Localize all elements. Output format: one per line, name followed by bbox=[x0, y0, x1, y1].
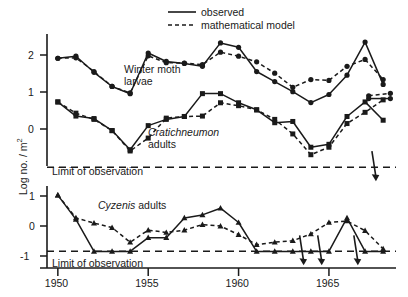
data-point bbox=[326, 145, 331, 150]
data-point bbox=[236, 45, 241, 50]
data-point bbox=[128, 148, 133, 153]
below-limit-arrow bbox=[372, 151, 380, 181]
data-point bbox=[381, 77, 386, 82]
data-point bbox=[128, 90, 133, 95]
y-tick-label-lower: 1 bbox=[29, 191, 35, 202]
data-point bbox=[381, 97, 386, 102]
data-point bbox=[218, 100, 223, 105]
arrow-head bbox=[318, 258, 326, 265]
data-point bbox=[290, 89, 295, 94]
data-point bbox=[254, 107, 259, 112]
data-point bbox=[218, 205, 224, 210]
data-point bbox=[236, 54, 241, 59]
data-point bbox=[55, 192, 61, 197]
data-point bbox=[91, 69, 96, 74]
data-point bbox=[345, 114, 350, 119]
y-axis-title: Log no. / m2 bbox=[15, 138, 29, 195]
data-point bbox=[362, 39, 367, 44]
figure-canvas: 01201-11950195519601965observedmathemati… bbox=[0, 0, 408, 297]
data-point bbox=[290, 119, 295, 124]
data-point bbox=[362, 57, 367, 62]
x-tick-label: 1965 bbox=[316, 278, 339, 289]
data-point bbox=[363, 110, 368, 115]
data-point bbox=[308, 231, 314, 236]
legend-label-observed: observed bbox=[201, 7, 244, 18]
data-point bbox=[236, 103, 241, 108]
data-point bbox=[308, 77, 313, 82]
data-point bbox=[381, 118, 386, 123]
data-point bbox=[308, 152, 313, 157]
arrow-shaft bbox=[354, 235, 358, 261]
data-point bbox=[388, 91, 393, 96]
series-label-cyzenis-adults: Cyzenis adults bbox=[98, 200, 166, 211]
y-tick-label-lower: -1 bbox=[20, 251, 29, 262]
arrow-shaft bbox=[300, 235, 304, 261]
data-point bbox=[73, 111, 78, 116]
data-point bbox=[200, 91, 205, 96]
y-tick-label-upper: 1 bbox=[28, 87, 34, 98]
data-point bbox=[109, 84, 114, 89]
data-point bbox=[345, 121, 350, 126]
data-point bbox=[326, 78, 331, 83]
data-point bbox=[218, 91, 223, 96]
arrow-head bbox=[354, 258, 362, 265]
y-tick-label-upper: 0 bbox=[28, 124, 34, 135]
data-point bbox=[254, 59, 259, 64]
series-label-cratichneumon-adults: Cratichneumonadults bbox=[148, 126, 219, 150]
data-point bbox=[200, 114, 205, 119]
x-tick-label: 1950 bbox=[45, 278, 68, 289]
data-point bbox=[272, 71, 277, 76]
legend-label-mathematical-model: mathematical model bbox=[201, 20, 295, 31]
limit-of-observation-label-upper: Limit of observation bbox=[52, 166, 143, 177]
arrow-shaft bbox=[372, 151, 376, 177]
data-point bbox=[388, 96, 393, 101]
data-point bbox=[308, 100, 313, 105]
data-point bbox=[218, 40, 223, 45]
data-point bbox=[290, 85, 295, 90]
data-point bbox=[366, 93, 371, 98]
data-point bbox=[182, 114, 187, 119]
data-point bbox=[272, 117, 277, 122]
data-point bbox=[326, 92, 331, 97]
data-point bbox=[290, 131, 295, 136]
data-point bbox=[363, 99, 368, 104]
data-point bbox=[272, 79, 277, 84]
series-markers-mathematical-model bbox=[55, 97, 385, 157]
x-tick-label: 1955 bbox=[135, 278, 158, 289]
data-point bbox=[91, 117, 96, 122]
data-point bbox=[110, 128, 115, 133]
series-line-mathematical-model bbox=[58, 52, 383, 93]
arrow-head bbox=[299, 258, 307, 265]
data-point bbox=[218, 50, 223, 55]
arrow-head bbox=[372, 174, 380, 181]
below-limit-arrow bbox=[318, 235, 326, 265]
data-point bbox=[344, 73, 349, 78]
x-tick-label: 1960 bbox=[226, 278, 249, 289]
data-point bbox=[73, 55, 78, 60]
data-point bbox=[254, 69, 259, 74]
arrow-shaft bbox=[318, 235, 322, 261]
below-limit-arrow bbox=[299, 235, 307, 265]
limit-of-observation-label-lower: Limit of observation bbox=[52, 258, 143, 269]
data-point bbox=[381, 82, 386, 87]
series-label-winter-moth-larvae: Winter moth larvae bbox=[124, 63, 204, 87]
data-point bbox=[236, 232, 242, 237]
below-limit-arrow bbox=[354, 235, 362, 265]
series-markers-mathematical-model bbox=[55, 50, 386, 96]
y-tick-label-lower: 0 bbox=[29, 221, 35, 232]
y-tick-label-upper: 2 bbox=[28, 50, 34, 61]
data-point bbox=[146, 53, 151, 58]
data-point bbox=[344, 64, 349, 69]
tail-line-model bbox=[369, 93, 391, 95]
data-point bbox=[164, 116, 169, 121]
data-point bbox=[55, 99, 60, 104]
data-point bbox=[55, 56, 60, 61]
data-point bbox=[308, 145, 313, 150]
